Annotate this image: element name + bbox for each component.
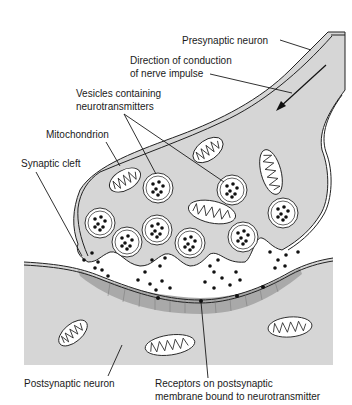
postsynaptic-neuron — [24, 258, 333, 365]
svg-text:Postsynaptic neuron: Postsynaptic neuron — [24, 378, 115, 389]
svg-text:Receptors on postsynaptic: Receptors on postsynaptic — [155, 378, 273, 389]
synapse-diagram: Presynaptic neuron Direction of conducti… — [0, 0, 352, 405]
svg-text:of nerve impulse: of nerve impulse — [130, 68, 204, 79]
label-presynaptic-neuron: Presynaptic neuron — [182, 35, 311, 50]
svg-text:neurotransmitters: neurotransmitters — [76, 101, 154, 112]
svg-text:Vesicles containing: Vesicles containing — [76, 88, 161, 99]
svg-text:Direction of conduction: Direction of conduction — [130, 55, 232, 66]
svg-text:Mitochondrion: Mitochondrion — [46, 129, 109, 140]
svg-text:Presynaptic neuron: Presynaptic neuron — [182, 35, 268, 46]
svg-text:membrane bound to neurotransmi: membrane bound to neurotransmitter — [155, 391, 321, 402]
svg-text:Synaptic cleft: Synaptic cleft — [21, 158, 81, 169]
label-synaptic-cleft: Synaptic cleft — [21, 158, 82, 256]
